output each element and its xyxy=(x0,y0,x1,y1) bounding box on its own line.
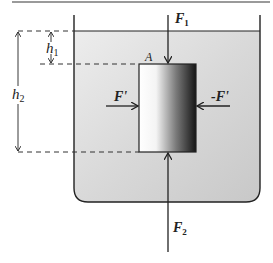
f2-label: F2 xyxy=(172,220,187,237)
h1-label: h1 xyxy=(46,40,59,58)
neg-f-prime-label: -F' xyxy=(211,89,229,104)
f1-label: F1 xyxy=(174,11,189,28)
submerged-block xyxy=(139,64,196,152)
f-prime-label: F' xyxy=(113,89,127,104)
h2-label: h2 xyxy=(12,86,25,104)
area-label-a: A xyxy=(144,50,153,64)
buoyancy-diagram: h1 h2 A F1 F2 F' -F' xyxy=(0,0,273,263)
